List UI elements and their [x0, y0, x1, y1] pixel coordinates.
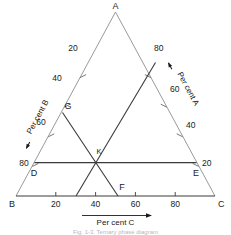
bottom-axis-arrow-icon — [146, 213, 152, 218]
point-label-K: K — [96, 147, 101, 156]
annotated-point-labels: D E G F K — [31, 101, 199, 192]
point-label-E: E — [193, 168, 199, 178]
bottom-tick-label-20: 20 — [51, 199, 61, 209]
left-axis-title: Per cent B — [25, 98, 51, 135]
bottom-axis-title-group: Per cent C — [82, 213, 152, 227]
vertex-label-B: B — [9, 199, 15, 209]
right-tick-label-20: 20 — [202, 158, 212, 168]
ternary-diagram-svg: A B C 20 40 60 80 80 60 40 20 20 40 60 8… — [0, 0, 231, 235]
left-tick-label-40: 40 — [52, 73, 62, 83]
left-tick-label-20: 20 — [68, 43, 78, 53]
bottom-tick-label-80: 80 — [170, 199, 180, 209]
point-label-F: F — [119, 182, 125, 192]
right-axis-arrow-icon — [166, 61, 173, 70]
right-tick-label-80: 80 — [154, 43, 164, 53]
bottom-tick-label-60: 60 — [131, 199, 141, 209]
bottom-edge-tick-labels: 20 40 60 80 — [51, 199, 180, 209]
left-axis-arrow-icon — [24, 141, 31, 150]
vertex-label-A: A — [112, 1, 118, 11]
bottom-axis-title: Per cent C — [97, 218, 135, 227]
vertex-label-C: C — [218, 199, 225, 209]
ternary-diagram-figure: A B C 20 40 60 80 80 60 40 20 20 40 60 8… — [0, 0, 231, 235]
construction-line-GF — [63, 113, 119, 197]
point-label-G: G — [64, 101, 71, 111]
bottom-tick-label-40: 40 — [91, 199, 101, 209]
left-axis-title-group: Per cent B — [18, 98, 53, 150]
left-tick-label-80: 80 — [19, 158, 29, 168]
right-tick-label-40: 40 — [186, 120, 196, 130]
right-tick-label-60: 60 — [170, 84, 180, 94]
point-label-D: D — [31, 168, 38, 178]
construction-line-bottom-to-right — [76, 63, 156, 197]
figure-caption: Fig. 1-3. Ternary phase diagram — [73, 229, 158, 235]
